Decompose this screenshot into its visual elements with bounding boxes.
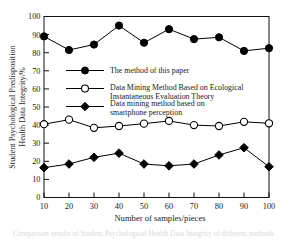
y-tick-label: 30	[32, 139, 40, 148]
y-axis-title-line1: Student Psychological Predisposition	[8, 44, 17, 168]
data-point-diamond	[215, 151, 224, 160]
legend-label: smartphone perception	[110, 108, 182, 117]
x-axis-title: Number of samples/pieces	[114, 213, 206, 223]
filled-diamond-icon	[81, 102, 89, 110]
data-point-diamond	[40, 163, 49, 172]
x-tick-label: 60	[165, 202, 173, 211]
data-point-circle	[90, 41, 97, 48]
data-point-open-circle	[215, 122, 222, 129]
x-tick-label: 40	[115, 202, 123, 211]
legend-label: Data Mining Method Based on Ecological	[110, 83, 244, 92]
data-point-open-circle	[115, 122, 122, 129]
x-tick-label: 30	[90, 202, 98, 211]
data-point-open-circle	[190, 122, 197, 129]
y-tick-label: 40	[32, 121, 40, 130]
series-line	[44, 148, 269, 168]
open-circle-icon	[82, 85, 89, 92]
y-tick-label: 50	[32, 103, 40, 112]
x-tick-label: 80	[215, 202, 223, 211]
data-point-open-circle	[65, 116, 72, 123]
data-point-circle	[65, 46, 72, 53]
y-tick-label: 20	[32, 157, 40, 166]
legend-entry-smartphone-perception: Data mining method based on smartphone p…	[66, 99, 205, 117]
y-tick-label: 90	[32, 31, 40, 40]
legend-label: Data mining method based on	[110, 99, 205, 108]
y-tick-label: 80	[32, 49, 40, 58]
data-point-circle	[40, 33, 47, 40]
legend-label: The method of this paper	[110, 66, 190, 75]
series-2	[40, 116, 272, 131]
data-point-open-circle	[265, 120, 272, 127]
x-axis-ticks	[44, 193, 269, 198]
data-point-circle	[265, 45, 272, 52]
y-axis-tick-labels: 0 10 20 30 40 50 60 70 80 90 100	[28, 12, 40, 202]
line-chart: 0 10 20 30 40 50 60 70 80 90 100	[0, 0, 287, 241]
x-tick-label: 100	[263, 202, 275, 211]
x-tick-label: 20	[65, 202, 73, 211]
x-tick-label: 50	[140, 202, 148, 211]
data-point-circle	[115, 22, 122, 29]
x-tick-label: 70	[190, 202, 198, 211]
data-point-circle	[190, 36, 197, 43]
data-point-circle	[140, 39, 147, 46]
series-3	[40, 143, 274, 172]
filled-circle-icon	[82, 67, 89, 74]
series-line	[44, 120, 269, 128]
y-tick-label: 60	[32, 85, 40, 94]
data-point-diamond	[65, 160, 74, 169]
data-point-diamond	[240, 143, 249, 152]
data-point-circle	[165, 26, 172, 33]
figure-container: 0 10 20 30 40 50 60 70 80 90 100	[0, 0, 287, 241]
series-1	[40, 22, 272, 55]
y-axis: 0 10 20 30 40 50 60 70 80 90 100	[28, 12, 49, 202]
x-tick-label: 90	[240, 202, 248, 211]
x-axis-tick-labels: 10 20 30 40 50 60 70 80 90 100	[40, 202, 275, 211]
series-line	[44, 26, 269, 51]
data-point-circle	[240, 47, 247, 54]
data-point-diamond	[265, 162, 274, 171]
data-point-diamond	[115, 149, 124, 158]
data-point-open-circle	[240, 118, 247, 125]
y-axis-title-line2: Health Data Integrity/%	[18, 67, 27, 147]
y-axis-title: Student Psychological Predisposition Hea…	[8, 44, 27, 168]
chart-legend: The method of this paper Data Mining Met…	[66, 66, 244, 117]
legend-entry-method-this-paper: The method of this paper	[66, 66, 190, 75]
y-tick-label: 10	[32, 175, 40, 184]
figure-caption: Comparison results of Student Psychologi…	[0, 230, 287, 238]
data-point-open-circle	[40, 121, 47, 128]
data-point-diamond	[190, 160, 199, 169]
y-tick-label: 100	[28, 12, 40, 21]
y-tick-label: 70	[32, 67, 40, 76]
data-point-open-circle	[165, 117, 172, 124]
data-point-circle	[215, 34, 222, 41]
x-tick-label: 10	[40, 202, 48, 211]
data-point-open-circle	[140, 120, 147, 127]
data-point-diamond	[140, 160, 149, 169]
data-point-diamond	[90, 153, 99, 162]
data-point-diamond	[165, 162, 174, 171]
data-point-open-circle	[90, 124, 97, 131]
